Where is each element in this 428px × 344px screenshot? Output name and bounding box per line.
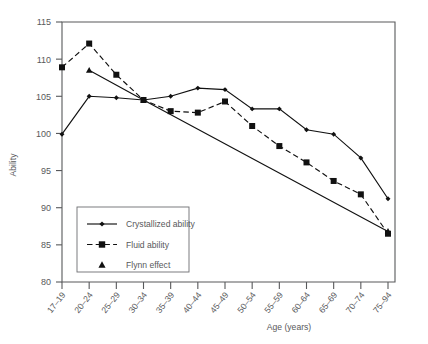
data-point-square (276, 143, 282, 149)
data-point-square (331, 178, 337, 184)
data-point-square (249, 123, 255, 129)
legend-label: Flynn effect (126, 260, 171, 270)
legend-label: Fluid ability (126, 240, 170, 250)
y-tick-label: 105 (36, 92, 51, 102)
y-tick-label: 110 (37, 55, 51, 65)
data-point-square (59, 64, 65, 70)
x-tick-label: 65–69 (317, 290, 340, 315)
legend-label: Crystallized ability (126, 219, 195, 229)
x-tick-label: 25–29 (99, 290, 122, 315)
data-point-square (358, 191, 364, 197)
data-point-diamond (114, 95, 119, 100)
chart-svg: 11511010510095908580 17–1920–2425–2930–3… (0, 0, 428, 344)
data-point-square (86, 41, 92, 47)
data-point-square (222, 98, 228, 104)
data-point-square (113, 72, 119, 78)
x-tick-label: 20–24 (72, 290, 95, 315)
y-axis-ticks: 11511010510095908580 (36, 17, 62, 287)
x-tick-label: 60–64 (289, 290, 312, 315)
legend-marker-square (99, 241, 105, 247)
x-tick-label: 45–49 (208, 290, 231, 315)
data-point-square (195, 110, 201, 116)
y-tick-label: 95 (41, 166, 51, 176)
y-tick-label: 90 (41, 203, 51, 213)
data-point-diamond (168, 94, 173, 99)
data-point-triangle (86, 67, 92, 73)
x-tick-label: 30–34 (126, 290, 149, 315)
x-tick-label: 75–94 (371, 290, 394, 315)
x-tick-label: 40–44 (181, 290, 204, 315)
data-point-diamond (195, 86, 200, 91)
legend: Crystallized abilityFluid abilityFlynn e… (77, 207, 195, 272)
x-tick-label: 50–54 (235, 290, 258, 315)
x-tick-label: 35–39 (154, 290, 177, 315)
x-axis-ticks: 17–1920–2425–2930–3435–3940–4445–4950–54… (45, 282, 394, 315)
x-tick-label: 70–74 (344, 290, 367, 315)
chart-figure: 11511010510095908580 17–1920–2425–2930–3… (0, 0, 428, 344)
x-axis-title: Age (years) (267, 322, 312, 332)
y-tick-label: 115 (37, 17, 51, 27)
y-tick-label: 100 (36, 129, 51, 139)
x-tick-label: 17–19 (45, 290, 68, 315)
y-tick-label: 80 (41, 277, 51, 287)
data-point-square (304, 159, 310, 165)
x-tick-label: 55–59 (262, 290, 285, 315)
y-tick-label: 85 (41, 240, 51, 250)
y-axis-title: Ability (8, 153, 18, 177)
